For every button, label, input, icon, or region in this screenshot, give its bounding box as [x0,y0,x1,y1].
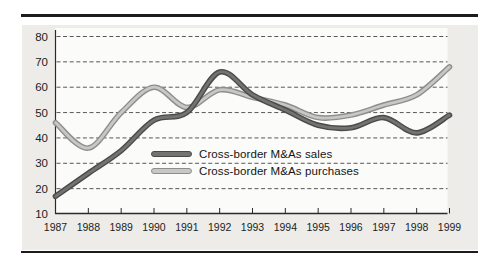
y-tick-label: 20 [35,183,48,195]
x-tick-label: 1992 [208,221,232,233]
x-tick-label: 1997 [372,221,396,233]
legend-label-purchases: Cross-border M&As purchases [199,165,359,177]
y-tick-label: 30 [35,157,48,169]
y-tick-label: 60 [35,81,48,93]
x-tick-label: 1988 [77,221,101,233]
legend-item-purchases: Cross-border M&As purchases [151,164,359,177]
x-tick-label: 1999 [438,221,462,233]
x-tick-label: 1994 [274,221,298,233]
sales-line-swatch [151,151,192,157]
y-tick-label: 70 [35,56,48,68]
line-chart: 1020304050607080198719881989199019911992… [0,0,501,263]
y-tick-label: 10 [35,208,48,220]
x-tick-label: 1996 [339,221,363,233]
x-tick-label: 1990 [142,221,166,233]
y-tick-label: 80 [35,31,48,43]
x-tick-label: 1991 [175,221,199,233]
x-tick-label: 1993 [241,221,265,233]
legend-label-sales: Cross-border M&As sales [199,148,332,160]
y-tick-label: 40 [35,132,48,144]
legend-item-sales: Cross-border M&As sales [151,147,359,160]
x-tick-label: 1987 [44,221,68,233]
x-tick-label: 1995 [306,221,330,233]
legend: Cross-border M&As sales Cross-border M&A… [151,147,359,177]
y-tick-label: 50 [35,107,48,119]
bottom-rule [21,251,478,253]
x-tick-label: 1989 [109,221,133,233]
figure-container: 1020304050607080198719881989199019911992… [0,0,501,263]
purchases-line-swatch [151,168,192,174]
x-tick-label: 1998 [405,221,429,233]
